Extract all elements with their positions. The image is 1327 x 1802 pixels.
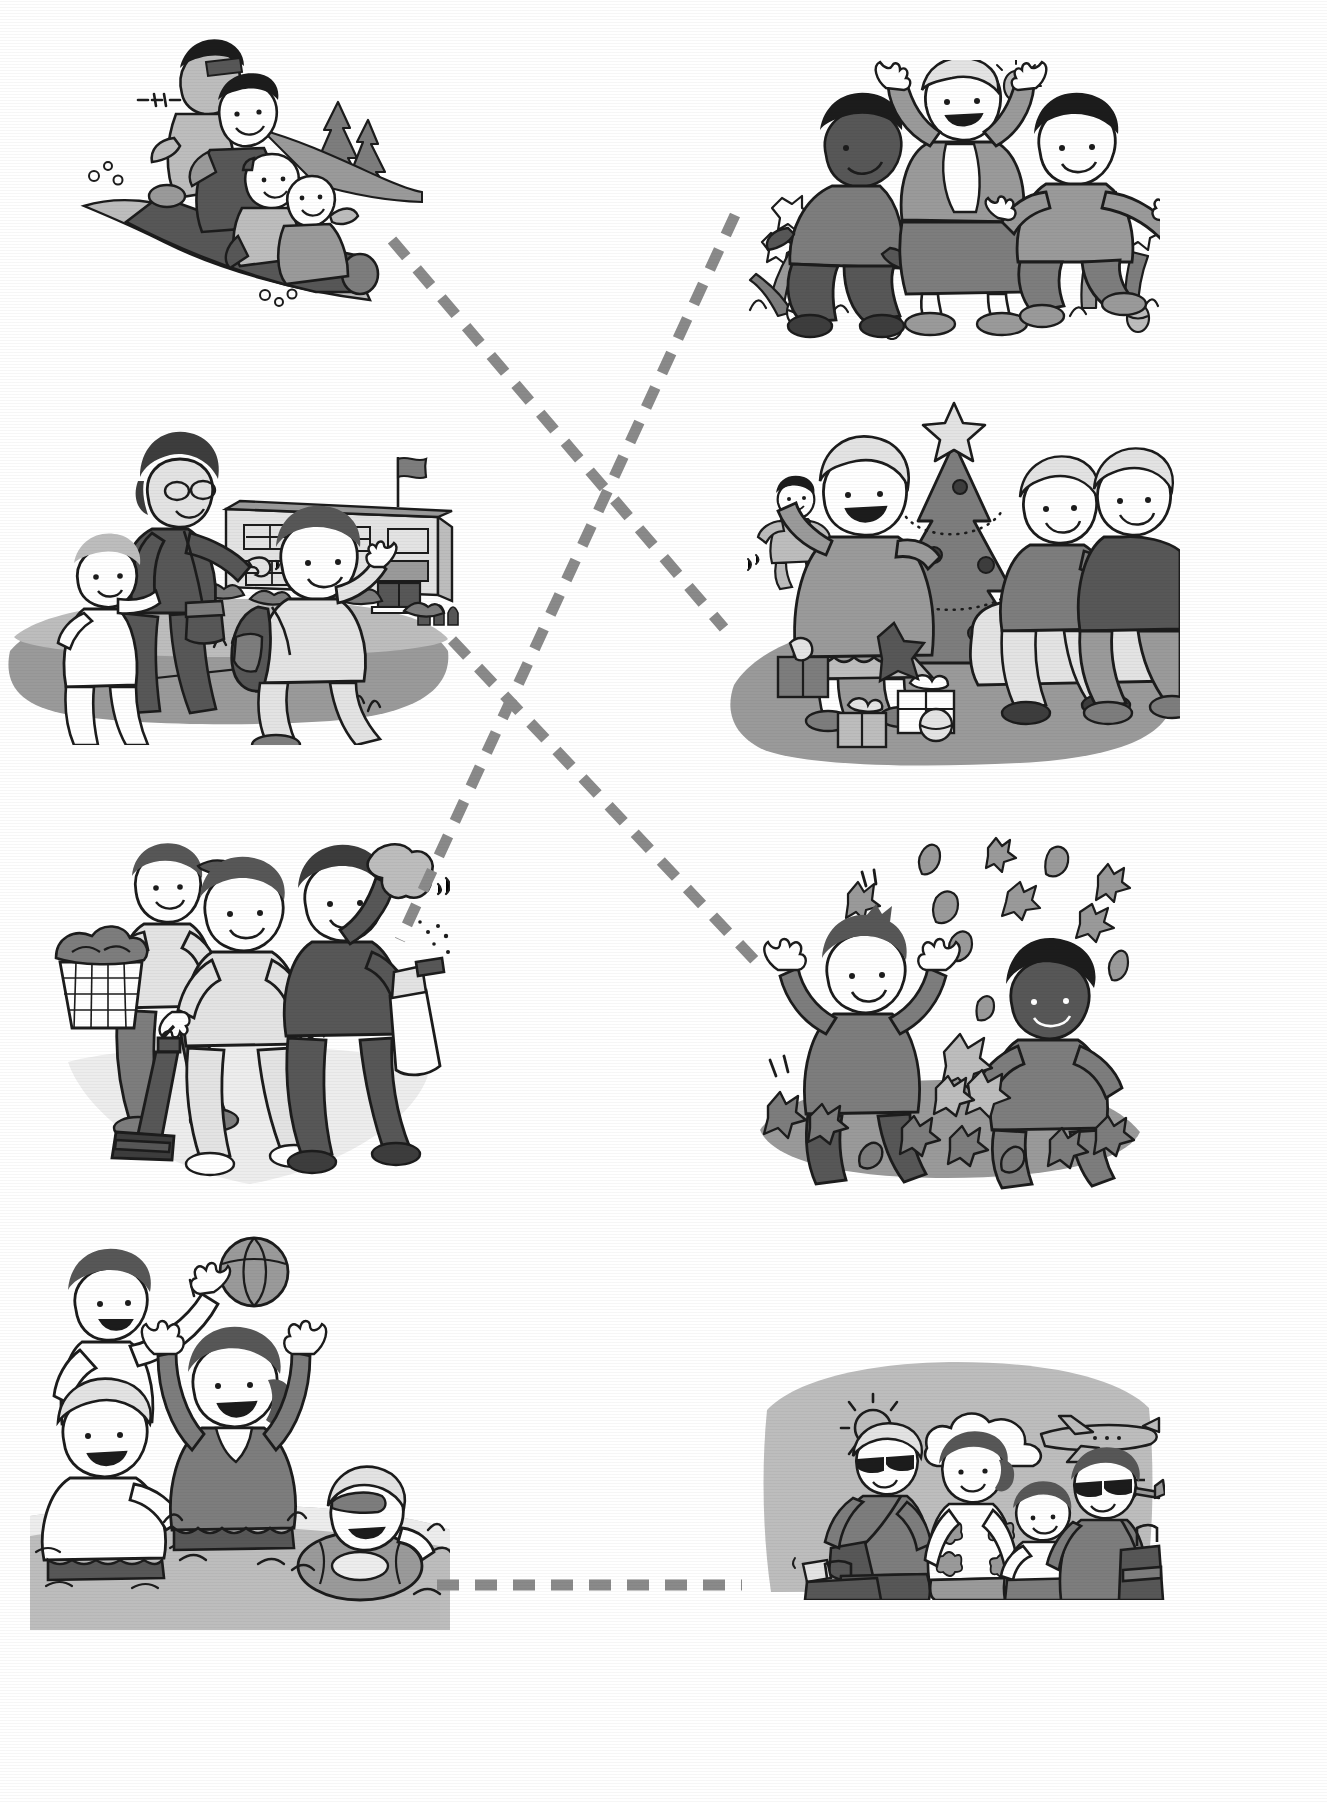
motion-lines (138, 94, 180, 106)
worksheet-page (0, 0, 1327, 1802)
scene-spring-cleaning[interactable] (50, 840, 450, 1200)
swim-goggles (332, 1493, 385, 1513)
scene-christmas[interactable] (720, 395, 1180, 785)
scene-easter-egg-hunt[interactable] (740, 60, 1160, 340)
scene-back-to-school[interactable] (0, 415, 460, 745)
bag-flap (186, 601, 224, 617)
scene-swimming[interactable] (30, 1230, 450, 1630)
laundry-basket (56, 926, 147, 1028)
scene-autumn-leaves[interactable] (750, 830, 1150, 1190)
scene-sledding[interactable] (30, 10, 430, 310)
backpack-pocket (234, 634, 262, 672)
connector-school-to-autumn[interactable] (452, 640, 762, 968)
flag (398, 458, 426, 478)
scene-summer-holiday[interactable] (745, 1280, 1165, 1600)
spray-bottle (390, 920, 450, 1075)
spray-mist (418, 920, 450, 954)
